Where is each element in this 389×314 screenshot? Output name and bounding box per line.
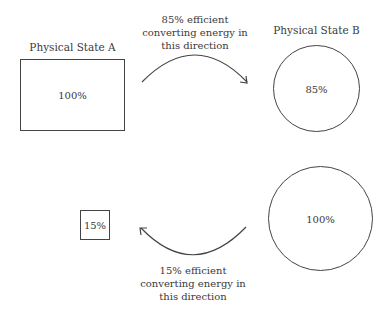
reverse-arrow [141,227,246,255]
arrows-layer [0,0,389,314]
forward-arrow [142,55,247,82]
forward-arrowhead-icon [240,76,247,83]
reverse-arrowhead-icon [140,228,147,235]
